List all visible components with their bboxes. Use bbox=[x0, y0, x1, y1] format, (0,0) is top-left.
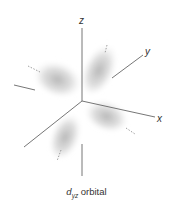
caption-text: orbital bbox=[78, 186, 107, 197]
axis-label-z: z bbox=[78, 15, 84, 26]
lobe-upper-left bbox=[30, 54, 87, 102]
lobe-upper-right bbox=[75, 37, 125, 99]
orbital-caption: dyz orbital bbox=[0, 186, 173, 199]
orbital-lobes bbox=[30, 37, 133, 162]
x-axis-negative bbox=[14, 85, 35, 90]
lobe-lower-left bbox=[44, 108, 88, 163]
axis-label-y: y bbox=[144, 46, 151, 57]
axes bbox=[14, 28, 155, 176]
lobe-lower-right bbox=[81, 93, 133, 136]
axis-label-x: x bbox=[156, 113, 163, 124]
orbital-diagram: z y x bbox=[0, 0, 173, 209]
hidden-segment-lower-right bbox=[126, 128, 135, 134]
